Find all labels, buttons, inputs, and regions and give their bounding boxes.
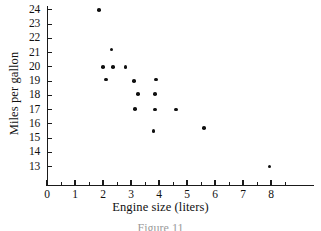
y-tick <box>47 81 52 82</box>
y-tick <box>47 95 52 96</box>
x-minor-tick <box>145 182 146 186</box>
data-point <box>174 108 178 112</box>
y-tick <box>47 52 52 53</box>
x-tick-label: 2 <box>93 189 113 201</box>
data-point <box>101 65 105 69</box>
x-minor-tick <box>61 182 62 186</box>
data-point <box>132 79 136 83</box>
x-tick-label: 4 <box>149 189 169 201</box>
x-tick <box>270 180 271 186</box>
data-point <box>110 48 114 52</box>
y-tick <box>47 38 52 39</box>
y-tick <box>47 166 52 167</box>
y-tick <box>47 152 52 153</box>
x-tick <box>186 180 187 186</box>
x-tick-label: 7 <box>233 189 253 201</box>
y-tick <box>47 123 52 124</box>
x-tick <box>46 180 47 186</box>
x-tick-label: 0 <box>37 189 57 201</box>
data-point <box>136 92 140 96</box>
data-point <box>268 165 272 169</box>
data-point <box>153 92 157 96</box>
data-point <box>124 65 128 69</box>
y-axis-title: Miles per gallon <box>7 24 22 164</box>
data-point <box>104 78 108 82</box>
y-axis-line <box>47 6 48 186</box>
data-point <box>111 65 115 69</box>
y-tick <box>47 24 52 25</box>
x-tick-label: 3 <box>121 189 141 201</box>
x-tick <box>74 180 75 186</box>
figure-caption: Figure 11 <box>0 221 321 231</box>
x-minor-tick <box>89 182 90 186</box>
x-tick <box>242 180 243 186</box>
x-tick <box>102 180 103 186</box>
x-tick <box>214 180 215 186</box>
data-point <box>202 126 206 130</box>
y-tick <box>47 66 52 67</box>
x-axis-title: Engine size (liters) <box>0 200 321 215</box>
x-tick <box>158 180 159 186</box>
data-point <box>153 108 157 112</box>
x-minor-tick <box>201 182 202 186</box>
x-minor-tick <box>257 182 258 186</box>
x-tick <box>130 180 131 186</box>
x-tick-label: 1 <box>65 189 85 201</box>
data-point <box>154 78 158 82</box>
data-point <box>97 8 101 12</box>
scatter-chart: 131415161718192021222324 012345678 Engin… <box>0 0 321 231</box>
x-tick-label: 8 <box>261 189 281 201</box>
y-tick-label: 24 <box>14 4 40 16</box>
x-tick-label: 5 <box>177 189 197 201</box>
x-minor-tick <box>229 182 230 186</box>
data-point <box>133 107 137 111</box>
x-minor-tick <box>173 182 174 186</box>
x-tick-label: 6 <box>205 189 225 201</box>
y-tick <box>47 109 52 110</box>
x-minor-tick <box>117 182 118 186</box>
x-axis-line <box>47 185 314 186</box>
y-tick <box>47 138 52 139</box>
y-tick <box>47 9 52 10</box>
data-point <box>152 129 156 133</box>
x-minor-tick <box>285 182 286 186</box>
